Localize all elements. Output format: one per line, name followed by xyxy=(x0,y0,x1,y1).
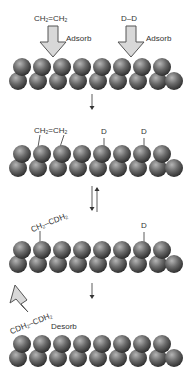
adsorbed-d-label-2: D xyxy=(141,128,147,136)
adsorbed-ethylene-label: CH2=CH2 xyxy=(34,127,67,135)
metal-surface-1 xyxy=(9,58,183,90)
ethylene-label-1: CH2=CH2 xyxy=(34,15,67,23)
deuterium-label: D–D xyxy=(121,15,137,23)
desorb-label: Desorb xyxy=(51,323,77,331)
remaining-d-label: D xyxy=(141,222,147,230)
adsorb-label-1: Adsorb xyxy=(66,35,91,43)
block-arrow-deuterium-adsorb xyxy=(118,26,144,57)
adsorbed-d-label-1: D xyxy=(101,128,107,136)
block-arrow-ethylene-adsorb xyxy=(40,26,66,57)
metal-surface-3 xyxy=(9,241,183,273)
block-arrow-desorb xyxy=(10,285,28,312)
metal-surface-4 xyxy=(9,335,183,367)
adsorb-label-2: Adsorb xyxy=(146,35,171,43)
metal-surface-2 xyxy=(9,145,183,177)
equilibrium-arrows xyxy=(90,186,100,212)
